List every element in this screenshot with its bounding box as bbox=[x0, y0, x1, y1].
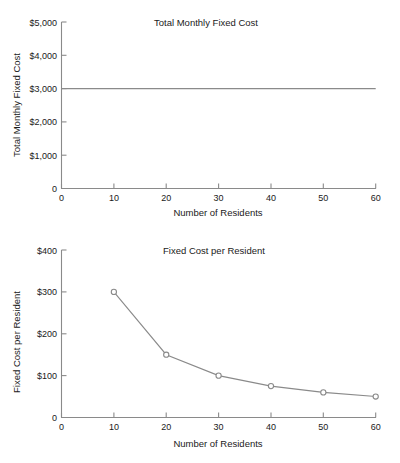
top-chart-xtick-0: 0 bbox=[59, 193, 64, 203]
top-chart-xtick-50: 50 bbox=[318, 193, 328, 203]
bottom-chart-ytick-200: $200 bbox=[37, 329, 57, 339]
top-chart-xtick-10: 10 bbox=[109, 193, 119, 203]
data-point-marker bbox=[111, 289, 116, 294]
bottom-chart-x-ticks bbox=[62, 413, 376, 418]
chart-total-monthly-fixed-cost: Total Monthly Fixed Cost Total Monthly F… bbox=[0, 0, 400, 232]
top-chart-y-axis-title: Total Monthly Fixed Cost bbox=[11, 53, 22, 157]
top-chart-axes bbox=[62, 22, 377, 189]
bottom-chart-xtick-30: 30 bbox=[214, 422, 224, 432]
data-point-marker bbox=[321, 390, 326, 395]
top-chart-ytick-2000: $2,000 bbox=[29, 117, 57, 127]
bottom-chart-xtick-10: 10 bbox=[109, 422, 119, 432]
top-chart-xtick-30: 30 bbox=[214, 193, 224, 203]
chart-fixed-cost-per-resident: Fixed Cost per Resident Fixed Cost per R… bbox=[0, 232, 400, 463]
bottom-chart-xtick-40: 40 bbox=[266, 422, 276, 432]
top-chart-ytick-3000: $3,000 bbox=[29, 84, 57, 94]
top-chart-xtick-40: 40 bbox=[266, 193, 276, 203]
bottom-chart-xtick-50: 50 bbox=[318, 422, 328, 432]
bottom-chart-xtick-0: 0 bbox=[59, 422, 64, 432]
top-chart-ytick-4000: $4,000 bbox=[29, 51, 57, 61]
bottom-chart-xtick-60: 60 bbox=[371, 422, 381, 432]
bottom-chart-y-ticks bbox=[62, 250, 67, 376]
top-chart-ytick-1000: $1,000 bbox=[29, 151, 57, 161]
top-chart-ytick-5000: $5,000 bbox=[29, 18, 57, 28]
bottom-chart-canvas: Fixed Cost per Resident Fixed Cost per R… bbox=[0, 232, 400, 463]
data-point-marker bbox=[373, 394, 378, 399]
data-point-marker bbox=[164, 352, 169, 357]
bottom-chart-ytick-300: $300 bbox=[37, 287, 57, 297]
bottom-chart-ytick-400: $400 bbox=[37, 246, 57, 256]
top-chart-x-axis-title: Number of Residents bbox=[173, 207, 262, 218]
bottom-chart-series bbox=[111, 289, 378, 399]
bottom-chart-title: Fixed Cost per Resident bbox=[163, 245, 265, 256]
top-chart-x-ticks bbox=[62, 184, 376, 189]
bottom-chart-ytick-100: $100 bbox=[37, 371, 57, 381]
top-chart-xtick-20: 20 bbox=[161, 193, 171, 203]
top-chart-xtick-60: 60 bbox=[371, 193, 381, 203]
top-chart-ytick-0: 0 bbox=[52, 184, 57, 194]
bottom-chart-y-axis-title: Fixed Cost per Resident bbox=[11, 291, 22, 393]
bottom-chart-x-axis-title: Number of Residents bbox=[173, 438, 262, 449]
data-point-marker bbox=[268, 383, 273, 388]
series-path bbox=[114, 292, 376, 397]
bottom-chart-xtick-20: 20 bbox=[161, 422, 171, 432]
top-chart-canvas: Total Monthly Fixed Cost Total Monthly F… bbox=[0, 0, 400, 232]
bottom-chart-ytick-0: 0 bbox=[52, 413, 57, 423]
top-chart-title: Total Monthly Fixed Cost bbox=[154, 17, 258, 28]
data-point-marker bbox=[216, 373, 221, 378]
